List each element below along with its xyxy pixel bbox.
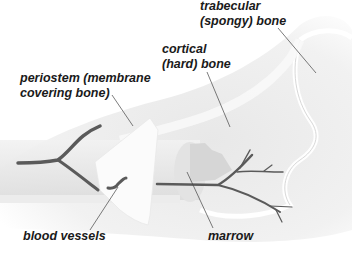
- label-line: periostem (membrane: [20, 71, 151, 86]
- label-cortical-bone: cortical (hard) bone: [162, 42, 231, 72]
- label-marrow: marrow: [208, 229, 253, 244]
- label-trabecular-bone: trabecular (spongy) bone: [200, 0, 286, 29]
- bone-diagram: [0, 0, 352, 254]
- label-periostem: periostem (membrane covering bone): [20, 71, 151, 101]
- label-line: (hard) bone: [162, 57, 231, 72]
- label-line: (spongy) bone: [200, 14, 286, 29]
- label-blood-vessels: blood vessels: [23, 229, 106, 244]
- label-line: covering bone): [20, 86, 151, 101]
- label-line: cortical: [162, 42, 231, 57]
- label-line: trabecular: [200, 0, 286, 14]
